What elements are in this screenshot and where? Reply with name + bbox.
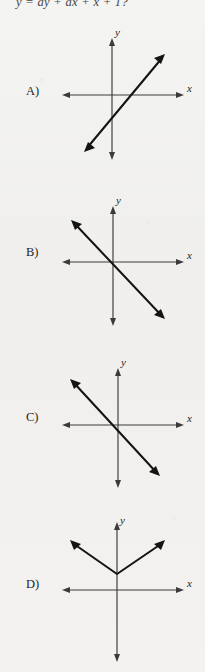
line-arrow-upper-right xyxy=(154,54,165,64)
y-axis-label: y xyxy=(119,514,125,526)
x-axis-label: x xyxy=(186,577,192,589)
line-segment xyxy=(87,58,162,148)
line-c xyxy=(70,379,160,476)
line-a xyxy=(84,54,165,152)
y-axis-arrow-down xyxy=(109,152,115,160)
scanned-page: y = ay + ax + x + 1? A) x y xyxy=(0,0,205,672)
x-axis-arrow-right xyxy=(176,422,184,428)
x-axis-arrow-left xyxy=(62,422,70,428)
y-axis-arrow-up xyxy=(115,368,121,376)
axes-b: x y xyxy=(62,194,192,326)
x-axis-label: x xyxy=(186,82,192,94)
y-axis-label: y xyxy=(115,194,121,206)
y-axis-label: y xyxy=(120,356,126,368)
choice-a[interactable]: A) x y xyxy=(0,22,205,162)
y-axis-arrow-down xyxy=(114,654,120,662)
line-b xyxy=(71,220,165,319)
line-arrow-lower-left xyxy=(84,142,95,152)
line-segment xyxy=(74,383,156,472)
line-segment xyxy=(75,224,161,315)
choice-c[interactable]: C) x y xyxy=(0,350,205,490)
y-axis-label: y xyxy=(114,26,120,38)
question-stem: y = ay + ax + x + 1? xyxy=(16,0,128,10)
choice-b[interactable]: B) x y xyxy=(0,186,205,326)
choice-c-graph: x y xyxy=(18,350,205,490)
axes-a: x y xyxy=(62,26,192,160)
x-axis-arrow-left xyxy=(62,587,70,593)
x-axis-arrow-left xyxy=(62,92,70,98)
x-axis-label: x xyxy=(186,412,192,424)
x-axis-arrow-right xyxy=(176,92,184,98)
y-axis-arrow-down xyxy=(110,318,116,326)
axes-c: x y xyxy=(62,356,192,488)
axes-d: x y xyxy=(62,514,192,662)
x-axis-arrow-right xyxy=(176,259,184,265)
choice-d-graph: x y xyxy=(18,512,205,672)
x-axis-arrow-right xyxy=(176,587,184,593)
y-axis-arrow-up xyxy=(109,38,115,46)
y-axis-arrow-down xyxy=(115,480,121,488)
choice-a-graph: x y xyxy=(18,22,205,162)
x-axis-label: x xyxy=(186,249,192,261)
y-axis-arrow-up xyxy=(110,206,116,214)
choice-b-graph: x y xyxy=(18,186,205,326)
choice-d[interactable]: D) x y xyxy=(0,512,205,672)
x-axis-arrow-left xyxy=(62,259,70,265)
